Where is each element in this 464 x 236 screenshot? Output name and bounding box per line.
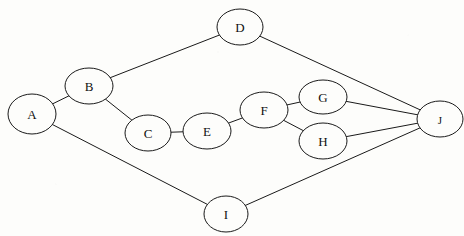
graph-node-c[interactable]: C bbox=[125, 115, 171, 151]
graph-edge-f-h bbox=[284, 120, 304, 130]
graph-edge-a-b bbox=[53, 96, 69, 104]
graph-node-d[interactable]: D bbox=[217, 9, 263, 45]
graph-edge-b-d bbox=[110, 35, 219, 78]
node-label-e: E bbox=[203, 124, 211, 139]
node-label-g: G bbox=[318, 90, 327, 105]
node-label-a: A bbox=[27, 107, 37, 122]
graph-node-a[interactable]: A bbox=[8, 94, 56, 134]
graph-edge-e-f bbox=[229, 118, 243, 123]
node-label-i: I bbox=[224, 207, 228, 222]
node-label-j: J bbox=[438, 114, 443, 126]
node-label-f: F bbox=[260, 103, 267, 118]
edges-layer bbox=[52, 35, 420, 205]
graph-node-b[interactable]: B bbox=[65, 68, 113, 104]
node-label-h: H bbox=[318, 134, 327, 149]
node-label-d: D bbox=[235, 20, 244, 35]
graph-node-h[interactable]: H bbox=[299, 123, 347, 159]
graph-node-j[interactable]: J bbox=[417, 101, 463, 137]
graph-edge-h-j bbox=[346, 123, 417, 136]
graph-node-e[interactable]: E bbox=[183, 113, 231, 149]
graph-edge-b-c bbox=[105, 99, 131, 120]
graph-diagram-page: ABCDEFGHIJ bbox=[0, 0, 464, 236]
node-label-c: C bbox=[144, 126, 153, 141]
graph-canvas: ABCDEFGHIJ bbox=[0, 0, 464, 236]
node-label-b: B bbox=[85, 79, 94, 94]
graph-node-f[interactable]: F bbox=[240, 92, 288, 128]
graph-node-g[interactable]: G bbox=[299, 80, 347, 114]
graph-edge-f-g bbox=[287, 102, 300, 105]
graph-node-i[interactable]: I bbox=[204, 196, 248, 232]
